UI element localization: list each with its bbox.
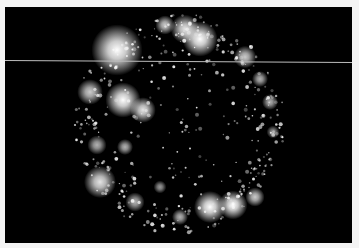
micrograph-image [5,7,352,243]
fluorescent-foci [5,7,352,243]
